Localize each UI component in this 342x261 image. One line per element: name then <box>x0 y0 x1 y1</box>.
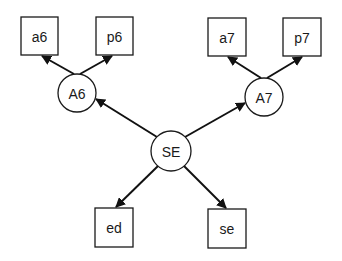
edge-a7-to-p7-arrow <box>267 57 302 78</box>
node-p7-observed: p7 <box>283 18 321 56</box>
node-a6-latent: A6 <box>58 74 96 112</box>
node-label: se <box>220 221 235 237</box>
path-diagram: SEA6A7a6p6a7p7edse <box>0 0 342 261</box>
edge-se-to-a6-arrow <box>96 99 157 137</box>
node-a7-observed: a7 <box>208 18 246 56</box>
edge-se-to-se-arrow <box>184 166 226 208</box>
edge-se-to-ed-arrow <box>116 166 158 207</box>
nodes-layer: SEA6A7a6p6a7p7edse <box>21 17 321 248</box>
node-label: a7 <box>219 30 235 46</box>
node-label: ed <box>106 220 122 236</box>
diagram-canvas: SEA6A7a6p6a7p7edse <box>0 0 342 261</box>
node-label: A7 <box>255 90 272 106</box>
node-se-latent: SE <box>151 131 191 171</box>
edge-se-to-a7-arrow <box>185 103 245 137</box>
edge-a6-to-a6-arrow <box>42 56 74 74</box>
node-a7-latent: A7 <box>245 78 283 116</box>
node-se-observed: se <box>208 209 246 248</box>
node-ed-observed: ed <box>95 208 133 247</box>
node-label: p7 <box>294 30 310 46</box>
node-label: p6 <box>107 29 123 45</box>
node-label: SE <box>162 144 181 160</box>
node-p6-observed: p6 <box>96 17 133 55</box>
node-a6-observed: a6 <box>21 17 58 55</box>
node-label: A6 <box>68 86 85 102</box>
edge-a6-to-p6-arrow <box>80 56 112 74</box>
node-label: a6 <box>32 29 48 45</box>
edge-a7-to-a7-arrow <box>228 57 261 78</box>
